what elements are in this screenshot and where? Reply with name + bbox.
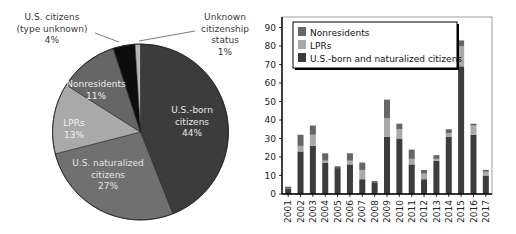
x-tick-label: 2013 [432, 200, 442, 223]
y-tick-label: 50 [265, 97, 277, 107]
bar-2009-nonresidents [384, 100, 390, 119]
bar-2001-u-s-born-and-naturalized-citizens [285, 188, 291, 194]
bar-2009-u-s-born-and-naturalized-citizens [384, 137, 390, 194]
legend-swatch-nonresidents [298, 27, 306, 36]
y-tick-label: 70 [265, 60, 277, 70]
y-tick-label: 80 [265, 41, 277, 51]
bar-2012-u-s-born-and-naturalized-citizens [421, 179, 427, 194]
y-tick-label: 30 [265, 134, 277, 144]
bar-2005-u-s-born-and-naturalized-citizens [335, 168, 341, 194]
x-axis-ticks: 2001200220032004200520062007200820092010… [283, 194, 491, 223]
bar-2010-nonresidents [396, 124, 402, 130]
y-tick-label: 10 [265, 171, 277, 181]
bar-2013-lprs [433, 159, 439, 161]
legend-label-nonresidents: Nonresidents [310, 28, 370, 38]
bar-2017-nonresidents [483, 170, 489, 172]
bar-2005-nonresidents [335, 166, 341, 168]
x-tick-label: 2010 [395, 200, 405, 223]
legend-label-u-s-born-and-naturalized-citizens: U.S.-born and naturalized citizens [310, 54, 462, 64]
bar-2003-nonresidents [310, 126, 316, 135]
bar-2006-lprs [347, 161, 353, 165]
bar-2012-nonresidents [421, 170, 427, 174]
bar-2006-u-s-born-and-naturalized-citizens [347, 164, 353, 194]
y-tick-label: 20 [265, 152, 277, 162]
legend-label-lprs: LPRs [310, 41, 332, 51]
stacked-bar-chart: 0102030405060708090 20012002200320042005… [0, 0, 516, 234]
bar-2001-nonresidents [285, 187, 291, 189]
bar-2017-u-s-born-and-naturalized-citizens [483, 176, 489, 195]
bar-2002-lprs [298, 146, 304, 152]
x-tick-label: 2003 [308, 200, 318, 223]
x-tick-label: 2012 [419, 200, 429, 223]
bar-2015-u-s-born-and-naturalized-citizens [458, 66, 464, 194]
y-tick-label: 0 [270, 189, 276, 199]
x-tick-label: 2005 [333, 200, 343, 223]
x-tick-label: 2008 [370, 200, 380, 223]
bar-2010-u-s-born-and-naturalized-citizens [396, 139, 402, 195]
bar-2004-u-s-born-and-naturalized-citizens [322, 163, 328, 194]
x-tick-label: 2002 [296, 200, 306, 223]
x-tick-label: 2006 [345, 200, 355, 223]
bar-2015-nonresidents [458, 40, 464, 46]
bar-2014-nonresidents [446, 129, 452, 133]
x-tick-label: 2014 [444, 200, 454, 223]
x-tick-label: 2016 [469, 200, 479, 223]
bar-2016-u-s-born-and-naturalized-citizens [470, 135, 476, 194]
bar-2017-lprs [483, 172, 489, 176]
bar-2007-u-s-born-and-naturalized-citizens [359, 179, 365, 194]
bar-2014-lprs [446, 133, 452, 137]
x-tick-label: 2001 [283, 200, 293, 223]
bar-2004-lprs [322, 161, 328, 163]
bar-2008-nonresidents [372, 181, 378, 183]
bar-2011-lprs [409, 159, 415, 165]
x-tick-label: 2004 [320, 200, 330, 223]
bar-2013-u-s-born-and-naturalized-citizens [433, 161, 439, 194]
bar-2007-lprs [359, 170, 365, 179]
bar-2009-lprs [384, 118, 390, 136]
x-tick-label: 2011 [407, 200, 417, 223]
x-tick-label: 2017 [481, 200, 491, 223]
x-tick-label: 2007 [357, 200, 367, 223]
y-tick-label: 60 [265, 78, 277, 88]
y-axis-ticks: 0102030405060708090 [265, 23, 282, 200]
bar-2003-u-s-born-and-naturalized-citizens [310, 146, 316, 194]
bar-2002-u-s-born-and-naturalized-citizens [298, 151, 304, 194]
bar-2002-nonresidents [298, 135, 304, 146]
bar-2008-u-s-born-and-naturalized-citizens [372, 183, 378, 194]
legend-swatch-lprs [298, 40, 306, 49]
x-tick-label: 2015 [456, 200, 466, 223]
bar-2014-u-s-born-and-naturalized-citizens [446, 137, 452, 194]
bar-2016-lprs [470, 126, 476, 135]
bar-2004-nonresidents [322, 153, 328, 160]
y-tick-label: 40 [265, 115, 277, 125]
legend: NonresidentsLPRsU.S.-born and naturalize… [293, 22, 462, 70]
bar-2006-nonresidents [347, 153, 353, 160]
bar-2016-nonresidents [470, 124, 476, 126]
y-tick-label: 90 [265, 23, 277, 33]
bar-2011-u-s-born-and-naturalized-citizens [409, 164, 415, 194]
x-tick-label: 2009 [382, 200, 392, 223]
bar-2011-nonresidents [409, 150, 415, 159]
bar-2010-lprs [396, 129, 402, 138]
legend-swatch-u-s-born-and-naturalized-citizens [298, 53, 306, 62]
bar-2003-lprs [310, 135, 316, 146]
bar-2012-lprs [421, 174, 427, 180]
bar-2007-nonresidents [359, 163, 365, 170]
bar-2013-nonresidents [433, 155, 439, 159]
